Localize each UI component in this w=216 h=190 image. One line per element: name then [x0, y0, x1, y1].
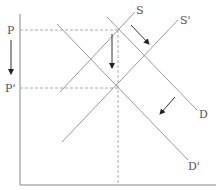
label-d: D	[199, 108, 208, 121]
label-p-prime: P'	[5, 82, 15, 95]
supply-shift-arrow-icon	[131, 25, 149, 44]
supply-demand-diagram: P P' S S' D D'	[0, 0, 216, 190]
supply-curve-s-prime	[62, 20, 178, 142]
label-d-prime: D'	[188, 160, 200, 173]
label-s-prime: S'	[180, 14, 191, 27]
supply-curve-s	[60, 12, 135, 92]
demand-curve-d-prime	[57, 24, 188, 160]
label-p: P	[7, 24, 15, 37]
label-s: S	[136, 4, 144, 17]
demand-curve-d	[107, 17, 197, 110]
demand-shift-arrow-icon	[160, 97, 175, 114]
